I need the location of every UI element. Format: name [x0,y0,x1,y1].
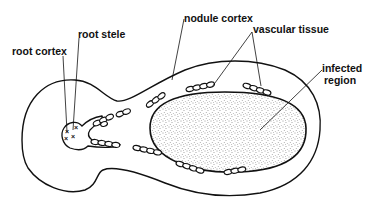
nodule-diagram: × × × × [0,0,373,209]
svg-text:×: × [71,133,75,140]
label-region: region [324,74,356,86]
infected-region [150,92,306,172]
label-root-stele: root stele [78,28,125,40]
label-root-cortex: root cortex [12,45,67,57]
label-nodule-cortex: nodule cortex [184,12,253,24]
label-infected: infected [322,62,362,74]
svg-text:×: × [64,135,68,142]
svg-text:×: × [74,124,78,131]
label-vascular-tissue: vascular tissue [253,23,329,35]
